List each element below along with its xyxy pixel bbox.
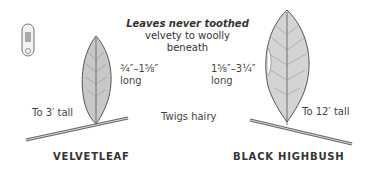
black-highbush-height: To 12′ tall xyxy=(302,106,350,118)
key-heading: Leaves never toothed velvety to woolly b… xyxy=(125,18,250,54)
velvetleaf-twig xyxy=(26,118,128,140)
velvetleaf-leaf-length: ¾″–1⅝″ xyxy=(120,63,158,75)
heading-line-3: beneath xyxy=(125,42,250,54)
velvetleaf-leaf-length-unit: long xyxy=(120,75,142,87)
velvetleaf-height: To 3′ tall xyxy=(32,107,73,119)
black-highbush-leaf-length-unit: long xyxy=(211,75,233,87)
black-highbush-name: BLACK HIGHBUSH xyxy=(233,151,344,162)
velvetleaf-name: VELVETLEAF xyxy=(53,151,130,162)
heading-title: Leaves never toothed xyxy=(125,18,250,30)
black-highbush-leaf-length: 1⅝″–3¼″ xyxy=(211,63,256,75)
heading-line-2: velvety to woolly xyxy=(125,30,250,42)
velvetleaf-leaf xyxy=(82,36,111,124)
habitat-badge-icon xyxy=(22,24,34,56)
black-highbush-twig xyxy=(250,120,352,144)
twigs-hairy-label: Twigs hairy xyxy=(161,111,216,123)
